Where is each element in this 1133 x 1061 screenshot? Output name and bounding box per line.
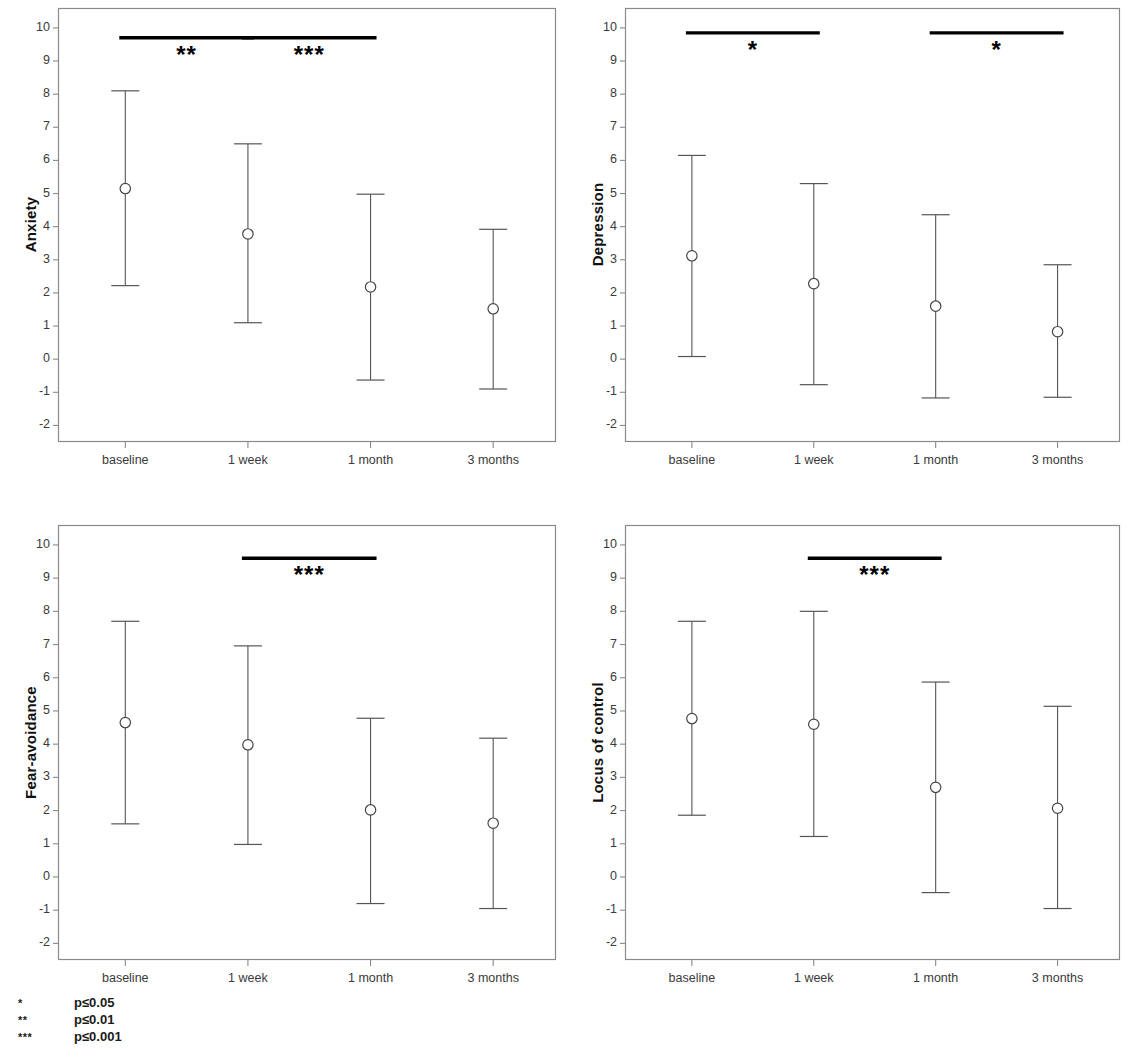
legend-row: ***p≤0.001 [18, 1029, 122, 1046]
y-axis-label-bottom-left: Fear-avoidance [22, 647, 39, 837]
mean-marker [687, 251, 697, 261]
chart-panel-top-left: 109876543210-1-2baseline1 week1 month3 m… [58, 8, 556, 442]
legend-row: *p≤0.05 [18, 995, 122, 1012]
chart-panel-bottom-left: 109876543210-1-2baseline1 week1 month3 m… [58, 525, 556, 960]
chart-panel-bottom-right: 109876543210-1-2baseline1 week1 month3 m… [625, 525, 1120, 960]
y-tick-label: 8 [581, 87, 617, 100]
y-tick-label: 1 [14, 837, 50, 850]
y-tick-label: 10 [581, 538, 617, 551]
y-tick-label: 9 [14, 54, 50, 67]
y-tick-label: 10 [14, 538, 50, 551]
y-tick-label: -1 [14, 385, 50, 398]
mean-marker [809, 719, 819, 729]
legend-significance-mark: * [18, 997, 74, 1009]
y-tick-label: 8 [14, 604, 50, 617]
legend-row: **p≤0.01 [18, 1012, 122, 1029]
plot-frame [59, 526, 556, 960]
y-tick-label: -2 [581, 936, 617, 949]
y-tick-label: 1 [14, 319, 50, 332]
plot-frame [626, 9, 1120, 442]
legend-pvalue-text: p≤0.001 [74, 1029, 122, 1044]
plot-frame [626, 526, 1120, 960]
legend-significance-mark: ** [18, 1014, 74, 1026]
mean-marker [687, 713, 697, 723]
plot-area-bottom-right [625, 525, 1120, 1000]
y-tick-label: -1 [14, 903, 50, 916]
mean-marker [243, 740, 253, 750]
legend-pvalue-text: p≤0.05 [74, 995, 114, 1010]
y-tick-label: 1 [581, 837, 617, 850]
plot-area-top-right [625, 8, 1120, 482]
mean-marker [488, 818, 498, 828]
mean-marker [930, 301, 940, 311]
y-tick-label: 8 [581, 604, 617, 617]
y-tick-label: 10 [14, 21, 50, 34]
y-tick-label: 7 [14, 120, 50, 133]
y-tick-label: 8 [14, 87, 50, 100]
legend-pvalue-text: p≤0.01 [74, 1012, 114, 1027]
mean-marker [1052, 326, 1062, 336]
y-tick-label: 0 [14, 870, 50, 883]
multi-panel-error-bar-figure: 109876543210-1-2baseline1 week1 month3 m… [0, 0, 1133, 1061]
plot-area-top-left [58, 8, 556, 482]
plot-area-bottom-left [58, 525, 556, 1000]
y-axis-label-bottom-right: Locus of control [589, 647, 606, 837]
y-tick-label: -2 [581, 418, 617, 431]
y-tick-label: 9 [581, 54, 617, 67]
mean-marker [930, 782, 940, 792]
y-axis-label-top-right: Depression [589, 150, 606, 300]
y-tick-label: 0 [14, 352, 50, 365]
y-tick-label: 9 [581, 571, 617, 584]
y-tick-label: 7 [581, 120, 617, 133]
y-tick-label: 0 [581, 870, 617, 883]
significance-legend: *p≤0.05**p≤0.01***p≤0.001 [18, 995, 122, 1046]
mean-marker [120, 717, 130, 727]
y-tick-label: -1 [581, 385, 617, 398]
mean-marker [365, 282, 375, 292]
y-tick-label: -2 [14, 936, 50, 949]
chart-panel-top-right: 109876543210-1-2baseline1 week1 month3 m… [625, 8, 1120, 442]
plot-frame [59, 9, 556, 442]
y-tick-label: -1 [581, 903, 617, 916]
y-tick-label: 10 [581, 21, 617, 34]
mean-marker [365, 805, 375, 815]
legend-significance-mark: *** [18, 1031, 74, 1043]
y-tick-label: -2 [14, 418, 50, 431]
y-tick-label: 0 [581, 352, 617, 365]
mean-marker [809, 278, 819, 288]
y-tick-label: 9 [14, 571, 50, 584]
mean-marker [120, 183, 130, 193]
mean-marker [243, 229, 253, 239]
mean-marker [488, 304, 498, 314]
y-tick-label: 1 [581, 319, 617, 332]
y-axis-label-top-left: Anxiety [22, 150, 39, 300]
mean-marker [1052, 803, 1062, 813]
